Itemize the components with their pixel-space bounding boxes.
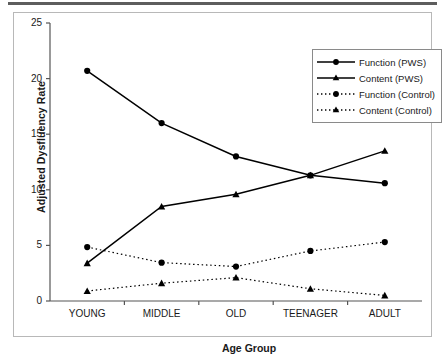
y-tick-label: 15 (16, 128, 42, 139)
legend-item: Content (Control) (316, 102, 437, 118)
data-point-marker (159, 120, 165, 126)
x-tick-label: ADULT (369, 308, 401, 319)
legend-label-function-control: Function (Control) (356, 89, 435, 100)
data-point-marker (84, 244, 90, 250)
x-tick-label: TEENAGER (283, 308, 338, 319)
y-tick-label: 10 (16, 184, 42, 195)
data-point-marker (307, 248, 313, 254)
y-axis-title: Adjusted Dysfluency Rate (35, 57, 47, 237)
data-point-marker (84, 68, 90, 74)
data-point-marker (233, 263, 239, 269)
y-tick-label: 25 (16, 17, 42, 28)
legend-label-content-control: Content (Control) (356, 105, 432, 116)
chart-figure-frame: Adjusted Dysfluency Rate Age Group 05101… (13, 12, 432, 337)
top-divider-rule (8, 2, 437, 5)
x-axis-title: Age Group (54, 342, 444, 354)
data-point-marker (84, 287, 91, 294)
y-tick-label: 0 (16, 295, 42, 306)
data-point-marker (382, 180, 388, 186)
data-point-marker (382, 239, 388, 245)
legend-label-function-pws: Function (PWS) (356, 57, 426, 68)
data-point-marker (158, 280, 165, 287)
x-tick-label: YOUNG (69, 308, 106, 319)
legend-item: Content (PWS) (316, 70, 437, 86)
x-tick-label: OLD (226, 308, 247, 319)
y-tick-label: 5 (16, 239, 42, 250)
chart-legend: Function (PWS) Content (PWS) Function (C… (312, 49, 442, 123)
legend-sample-function-control (316, 87, 356, 101)
data-point-marker (233, 153, 239, 159)
data-point-marker (307, 285, 314, 292)
legend-label-content-pws: Content (PWS) (356, 73, 423, 84)
legend-sample-content-control (316, 103, 356, 117)
legend-sample-function-pws (316, 55, 356, 69)
legend-item: Function (Control) (316, 86, 437, 102)
data-point-marker (159, 260, 165, 266)
x-tick-label: MIDDLE (143, 308, 181, 319)
y-tick-label: 20 (16, 73, 42, 84)
legend-item: Function (PWS) (316, 54, 437, 70)
series-line (87, 242, 385, 266)
data-point-marker (381, 147, 388, 154)
legend-sample-content-pws (316, 71, 356, 85)
series-line (87, 151, 385, 263)
